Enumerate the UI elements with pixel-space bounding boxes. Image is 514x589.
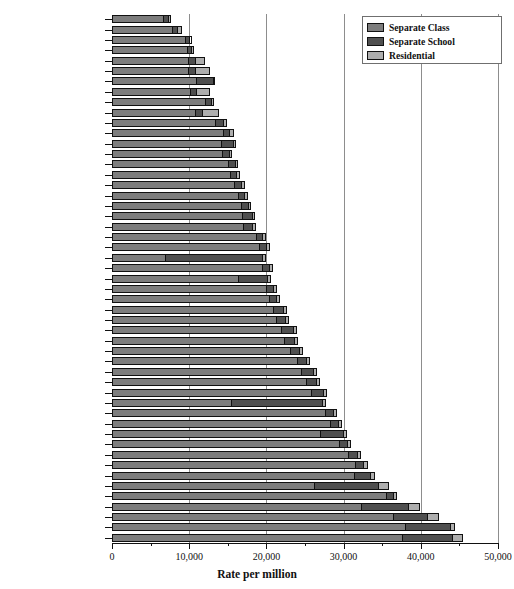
category-tick <box>105 434 112 435</box>
category-tick <box>105 237 112 238</box>
bar-segment-class <box>113 120 215 126</box>
bar-segment-resid <box>452 535 462 541</box>
bar-segment-class <box>113 78 196 84</box>
bar-segment-resid <box>294 338 297 344</box>
bar-segment-school <box>361 504 409 510</box>
bar-row <box>112 492 397 500</box>
bar-segment-class <box>113 462 355 468</box>
category-tick <box>105 310 112 311</box>
bar-segment-class <box>113 524 405 530</box>
bar-segment-school <box>262 265 269 271</box>
bar-segment-school <box>393 514 427 520</box>
category-tick <box>105 123 112 124</box>
category-tick <box>105 102 112 103</box>
bar-segment-school <box>402 535 452 541</box>
bar-segment-resid <box>233 141 235 147</box>
category-tick <box>105 361 112 362</box>
bar-row <box>112 357 310 365</box>
bar-segment-resid <box>213 78 215 84</box>
legend-label-separate-class: Separate Class <box>389 22 450 33</box>
bar-segment-resid <box>273 286 276 292</box>
bar-row <box>112 420 342 428</box>
bar-segment-resid <box>244 193 247 199</box>
bar-segment-resid <box>313 369 316 375</box>
bar-segment-class <box>113 244 259 250</box>
category-tick <box>105 196 112 197</box>
bar-segment-resid <box>196 89 209 95</box>
category-tick <box>105 227 112 228</box>
bar-segment-class <box>113 58 188 64</box>
bar-segment-class <box>113 47 187 53</box>
legend-swatch-separate-school <box>367 37 384 46</box>
legend-swatch-residential <box>367 51 384 60</box>
bar-segment-resid <box>408 504 419 510</box>
bar-segment-school <box>188 58 195 64</box>
bar-segment-class <box>113 172 230 178</box>
bar-segment-class <box>113 276 238 282</box>
bar-segment-school <box>222 151 230 157</box>
x-tick-major <box>112 543 113 549</box>
category-tick <box>105 527 112 528</box>
bar-segment-resid <box>168 16 169 22</box>
bar-row <box>112 472 375 480</box>
bar-segment-class <box>113 37 185 43</box>
legend-label-residential: Residential <box>389 50 435 61</box>
category-tick <box>105 71 112 72</box>
bar-segment-class <box>113 99 205 105</box>
x-tick-minor <box>305 543 306 546</box>
category-tick <box>105 486 112 487</box>
category-tick <box>105 424 112 425</box>
bar-segment-resid <box>195 58 205 64</box>
bar-segment-class <box>113 307 273 313</box>
category-tick <box>105 289 112 290</box>
bar-segment-class <box>113 390 311 396</box>
category-tick <box>105 216 112 217</box>
legend-item-separate-school: Separate School <box>367 34 501 48</box>
bar-segment-resid <box>266 244 269 250</box>
legend-label-separate-school: Separate School <box>389 36 455 47</box>
bar-row <box>112 140 236 148</box>
bar-segment-resid <box>427 514 438 520</box>
category-tick <box>105 113 112 114</box>
bar-segment-resid <box>269 265 272 271</box>
bar-segment-resid <box>293 327 296 333</box>
bar-segment-resid <box>262 234 265 240</box>
bar-row <box>112 36 192 44</box>
bar-row <box>112 129 234 137</box>
category-tick <box>105 144 112 145</box>
bar-segment-resid <box>241 182 244 188</box>
bar-row <box>112 254 266 262</box>
bar-segment-resid <box>283 307 286 313</box>
category-tick <box>105 351 112 352</box>
bar-segment-resid <box>363 462 366 468</box>
bar-row <box>112 233 266 241</box>
bar-segment-class <box>113 535 402 541</box>
bar-row <box>112 461 368 469</box>
bar-segment-resid <box>223 120 226 126</box>
bar-segment-class <box>113 452 348 458</box>
category-tick <box>105 320 112 321</box>
bar-row <box>112 326 297 334</box>
bar-segment-class <box>113 473 354 479</box>
bar-segment-school <box>221 141 233 147</box>
category-tick <box>105 30 112 31</box>
bar-segment-class <box>113 338 284 344</box>
bar-row <box>112 181 245 189</box>
bar-row <box>112 98 214 106</box>
bar-segment-resid <box>347 441 350 447</box>
bar-segment-resid <box>177 27 182 33</box>
bar-segment-resid <box>370 473 374 479</box>
bar-segment-school <box>196 78 213 84</box>
bar-segment-class <box>113 203 241 209</box>
bar-row <box>112 160 238 168</box>
bar-segment-class <box>113 265 262 271</box>
bar-segment-school <box>266 286 273 292</box>
x-tick-major <box>189 543 190 549</box>
bar-segment-resid <box>252 224 255 230</box>
bar-segment-resid <box>285 317 288 323</box>
x-tick-major <box>498 543 499 549</box>
bar-segment-class <box>113 483 314 489</box>
bar-segment-school <box>354 473 371 479</box>
bar-segment-resid <box>189 37 191 43</box>
bar-segment-resid <box>323 390 326 396</box>
